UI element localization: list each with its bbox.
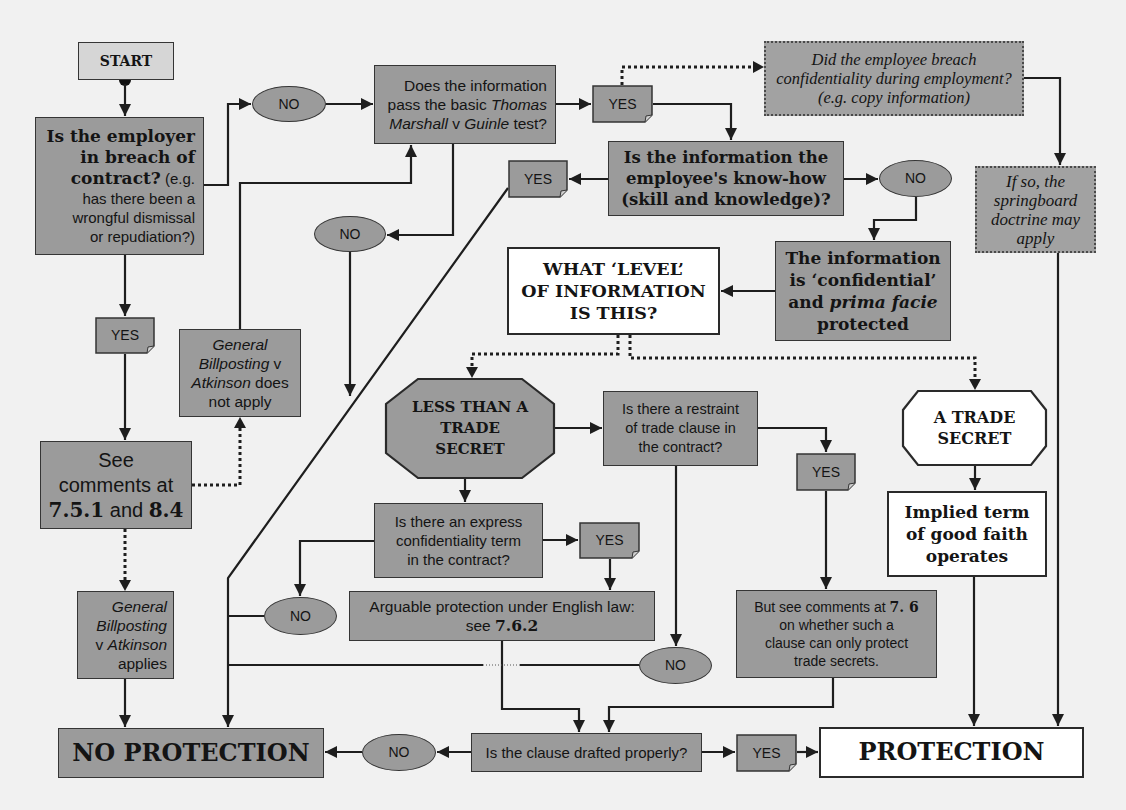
yes-label: YES — [812, 464, 840, 481]
yes-label: YES — [608, 96, 636, 113]
employee-breach-text: Did the employee breach confidentiality … — [776, 50, 1012, 107]
see-comments-node: See comments at 7.5.1 and 8.4 — [40, 441, 192, 529]
billposting-applies-node: General Billposting v Atkinson applies — [77, 591, 174, 679]
case-name: Atkinson — [108, 636, 167, 653]
protection-label: PROTECTION — [858, 738, 1044, 767]
text-segment: protected — [817, 314, 909, 334]
but-see-comments-text: But see comments at 7. 6 on whether such… — [754, 598, 919, 670]
implied-term-text: Implied term of good faith operates — [905, 501, 1030, 567]
yes-clause-tag: YES — [736, 734, 797, 772]
no-clause-ellipse: NO — [362, 734, 436, 771]
restraint-clause-question: Is there a restraint of trade clause in … — [603, 391, 758, 466]
yes-label: YES — [595, 532, 623, 549]
no-employer-ellipse: NO — [252, 86, 326, 122]
text-segment: v — [448, 115, 464, 132]
yes-thomas-tag: YES — [592, 85, 653, 123]
thomas-marshall-test-question: Does the information pass the basic Thom… — [374, 65, 556, 144]
section-ref: 8.4 — [149, 498, 184, 522]
no-protection-label: NO PROTECTION — [72, 739, 309, 768]
yes-knowhow-tag: YES — [508, 160, 568, 198]
text-segment: and — [104, 499, 148, 521]
yes-restraint-tag: YES — [796, 453, 856, 491]
knowhow-text: Is the information the employee's know-h… — [621, 147, 831, 210]
case-name: General Billposting — [199, 336, 270, 372]
arguable-protection-text: Arguable protection under English law: s… — [369, 597, 634, 635]
section-ref: 7. 6 — [890, 599, 919, 615]
case-name: General Billposting — [96, 598, 167, 634]
text-segment: But see comments at — [754, 599, 889, 615]
springboard-text: If so, the springboard doctrine may appl… — [991, 172, 1080, 248]
case-name: Guinle — [464, 115, 509, 132]
knowhow-question: Is the information the employee's know-h… — [608, 141, 844, 216]
implied-term-node: Implied term of good faith operates — [887, 491, 1047, 577]
latin-term: prima facie — [830, 292, 938, 312]
arguable-protection-node: Arguable protection under English law: s… — [349, 591, 655, 641]
see-comments-text: See comments at 7.5.1 and 8.4 — [49, 448, 184, 523]
protection-outcome: PROTECTION — [819, 727, 1084, 778]
billposting-applies-text: General Billposting v Atkinson applies — [78, 597, 173, 673]
less-than-trade-secret-node: LESS THAN A TRADE SECRET — [385, 378, 555, 479]
employer-breach-question: Is the employer in breach of contract? (… — [35, 117, 204, 255]
yes-employer-tag: YES — [95, 317, 155, 354]
no-label: NO — [665, 657, 686, 674]
yes-label: YES — [752, 745, 780, 762]
less-than-text: LESS THAN A TRADE SECRET — [412, 397, 528, 460]
express-term-question: Is there an express confidentiality term… — [374, 503, 543, 578]
text-segment: test? — [509, 115, 547, 132]
text-segment: on whether such a clause can only protec… — [765, 617, 908, 669]
no-restraint-ellipse: NO — [639, 647, 712, 684]
springboard-doctrine-note: If so, the springboard doctrine may appl… — [975, 166, 1096, 253]
no-thomas-ellipse: NO — [314, 216, 386, 252]
no-label: NO — [290, 608, 311, 625]
trade-secret-node: A TRADE SECRET — [902, 390, 1047, 466]
no-knowhow-ellipse: NO — [879, 160, 952, 197]
trade-secret-text: A TRADE SECRET — [934, 407, 1016, 449]
flowchart-canvas: START Is the employer in breach of contr… — [0, 0, 1126, 810]
text-segment: v — [269, 355, 281, 372]
yes-label: YES — [111, 327, 139, 344]
yes-express-tag: YES — [579, 522, 640, 559]
clause-drafted-question: Is the clause drafted properly? — [471, 733, 702, 772]
no-label: NO — [340, 226, 361, 243]
start-label: START — [100, 53, 152, 70]
section-ref: 7.6.2 — [495, 616, 538, 635]
what-level-text: WHAT ‘LEVEL’ OF INFORMATION IS THIS? — [521, 258, 706, 324]
yes-label: YES — [524, 171, 552, 188]
what-level-question: WHAT ‘LEVEL’ OF INFORMATION IS THIS? — [507, 247, 720, 335]
restraint-text: Is there a restraint of trade clause in … — [622, 400, 739, 457]
but-see-comments-node: But see comments at 7. 6 on whether such… — [736, 590, 937, 678]
thomas-marshall-text: Does the information pass the basic Thom… — [375, 76, 555, 133]
no-label: NO — [279, 96, 300, 113]
text-segment: applies — [118, 655, 167, 672]
no-express-ellipse: NO — [264, 597, 337, 635]
section-ref: 7.5.1 — [49, 498, 105, 522]
billposting-not-apply-node: General Billposting v Atkinson does not … — [179, 329, 301, 417]
text-segment: v — [95, 636, 107, 653]
no-protection-outcome: NO PROTECTION — [58, 728, 324, 778]
confidential-text: The information is ‘confidential’ and pr… — [785, 247, 940, 335]
billposting-not-apply-text: General Billposting v Atkinson does not … — [191, 335, 288, 411]
express-term-text: Is there an express confidentiality term… — [395, 512, 523, 569]
clause-drafted-text: Is the clause drafted properly? — [486, 744, 688, 762]
employer-breach-text: Is the employer in breach of contract? (… — [36, 126, 203, 247]
no-label: NO — [389, 744, 410, 761]
no-label: NO — [905, 170, 926, 187]
text-segment: See comments at — [59, 449, 173, 496]
employee-breach-question: Did the employee breach confidentiality … — [764, 41, 1024, 116]
case-name: Atkinson — [191, 374, 250, 391]
confidential-protected-node: The information is ‘confidential’ and pr… — [775, 241, 951, 341]
start-node: START — [78, 42, 174, 80]
